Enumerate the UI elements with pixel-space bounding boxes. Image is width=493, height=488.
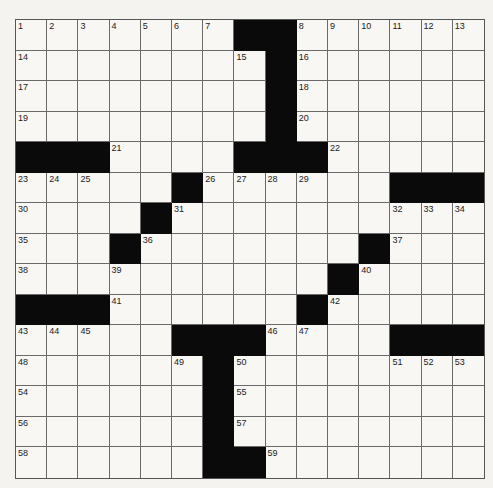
crossword-cell[interactable] (453, 295, 484, 326)
crossword-cell[interactable] (110, 325, 141, 356)
crossword-cell[interactable] (453, 447, 484, 478)
crossword-cell[interactable] (422, 295, 453, 326)
crossword-cell[interactable] (422, 447, 453, 478)
crossword-cell[interactable] (390, 386, 421, 417)
crossword-cell[interactable] (78, 234, 109, 265)
crossword-cell[interactable]: 43 (16, 325, 47, 356)
crossword-cell[interactable] (78, 51, 109, 82)
crossword-cell[interactable] (234, 81, 265, 112)
crossword-cell[interactable]: 8 (297, 20, 328, 51)
crossword-cell[interactable] (266, 234, 297, 265)
crossword-cell[interactable]: 9 (328, 20, 359, 51)
crossword-cell[interactable] (141, 264, 172, 295)
crossword-cell[interactable]: 52 (422, 356, 453, 387)
crossword-cell[interactable] (422, 386, 453, 417)
crossword-cell[interactable] (47, 447, 78, 478)
crossword-cell[interactable] (266, 264, 297, 295)
crossword-cell[interactable] (47, 112, 78, 143)
crossword-cell[interactable] (203, 51, 234, 82)
crossword-cell[interactable] (297, 356, 328, 387)
crossword-cell[interactable] (297, 417, 328, 448)
crossword-cell[interactable] (234, 295, 265, 326)
crossword-cell[interactable] (234, 112, 265, 143)
crossword-cell[interactable]: 39 (110, 264, 141, 295)
crossword-cell[interactable]: 44 (47, 325, 78, 356)
crossword-cell[interactable] (422, 112, 453, 143)
crossword-cell[interactable] (203, 203, 234, 234)
crossword-cell[interactable]: 5 (141, 20, 172, 51)
crossword-cell[interactable] (203, 112, 234, 143)
crossword-cell[interactable]: 27 (234, 173, 265, 204)
crossword-cell[interactable]: 1 (16, 20, 47, 51)
crossword-cell[interactable] (78, 386, 109, 417)
crossword-cell[interactable] (78, 112, 109, 143)
crossword-cell[interactable] (266, 386, 297, 417)
crossword-cell[interactable]: 46 (266, 325, 297, 356)
crossword-cell[interactable]: 30 (16, 203, 47, 234)
crossword-cell[interactable] (359, 356, 390, 387)
crossword-cell[interactable]: 53 (453, 356, 484, 387)
crossword-cell[interactable] (47, 264, 78, 295)
crossword-cell[interactable]: 59 (266, 447, 297, 478)
crossword-cell[interactable] (141, 295, 172, 326)
crossword-cell[interactable]: 26 (203, 173, 234, 204)
crossword-cell[interactable] (110, 173, 141, 204)
crossword-cell[interactable]: 57 (234, 417, 265, 448)
crossword-cell[interactable] (359, 386, 390, 417)
crossword-cell[interactable] (266, 417, 297, 448)
crossword-cell[interactable] (172, 264, 203, 295)
crossword-cell[interactable] (328, 356, 359, 387)
crossword-cell[interactable] (47, 203, 78, 234)
crossword-cell[interactable] (359, 325, 390, 356)
crossword-cell[interactable] (328, 386, 359, 417)
crossword-cell[interactable] (359, 447, 390, 478)
crossword-cell[interactable] (172, 112, 203, 143)
crossword-cell[interactable] (141, 51, 172, 82)
crossword-cell[interactable] (390, 51, 421, 82)
crossword-cell[interactable] (359, 295, 390, 326)
crossword-cell[interactable]: 33 (422, 203, 453, 234)
crossword-cell[interactable] (453, 81, 484, 112)
crossword-cell[interactable] (266, 203, 297, 234)
crossword-cell[interactable] (390, 447, 421, 478)
crossword-cell[interactable] (110, 356, 141, 387)
crossword-cell[interactable]: 21 (110, 142, 141, 173)
crossword-cell[interactable] (422, 142, 453, 173)
crossword-cell[interactable] (110, 51, 141, 82)
crossword-cell[interactable] (359, 417, 390, 448)
crossword-cell[interactable] (359, 81, 390, 112)
crossword-cell[interactable] (172, 417, 203, 448)
crossword-cell[interactable] (141, 447, 172, 478)
crossword-cell[interactable] (47, 51, 78, 82)
crossword-cell[interactable] (297, 386, 328, 417)
crossword-cell[interactable]: 13 (453, 20, 484, 51)
crossword-cell[interactable] (47, 417, 78, 448)
crossword-cell[interactable] (453, 51, 484, 82)
crossword-cell[interactable] (141, 81, 172, 112)
crossword-cell[interactable]: 10 (359, 20, 390, 51)
crossword-cell[interactable] (453, 417, 484, 448)
crossword-cell[interactable]: 54 (16, 386, 47, 417)
crossword-cell[interactable] (110, 386, 141, 417)
crossword-cell[interactable] (47, 234, 78, 265)
crossword-cell[interactable] (141, 356, 172, 387)
crossword-cell[interactable] (390, 112, 421, 143)
crossword-cell[interactable]: 17 (16, 81, 47, 112)
crossword-cell[interactable] (141, 112, 172, 143)
crossword-cell[interactable]: 45 (78, 325, 109, 356)
crossword-cell[interactable] (172, 447, 203, 478)
crossword-cell[interactable]: 34 (453, 203, 484, 234)
crossword-cell[interactable] (328, 325, 359, 356)
crossword-cell[interactable] (110, 203, 141, 234)
crossword-cell[interactable] (453, 112, 484, 143)
crossword-cell[interactable]: 6 (172, 20, 203, 51)
crossword-cell[interactable] (422, 234, 453, 265)
crossword-cell[interactable] (203, 295, 234, 326)
crossword-cell[interactable] (234, 234, 265, 265)
crossword-cell[interactable] (328, 51, 359, 82)
crossword-cell[interactable]: 58 (16, 447, 47, 478)
crossword-cell[interactable] (390, 142, 421, 173)
crossword-cell[interactable] (172, 51, 203, 82)
crossword-cell[interactable]: 16 (297, 51, 328, 82)
crossword-cell[interactable] (203, 142, 234, 173)
